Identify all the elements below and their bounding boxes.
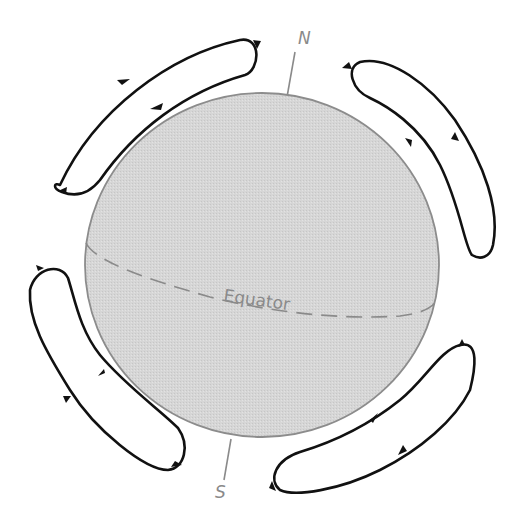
earth-sphere — [85, 93, 439, 437]
arrow-icon — [63, 396, 71, 403]
arrow-icon — [405, 138, 412, 147]
south-axis-line — [224, 439, 231, 480]
arrow-icon — [117, 79, 130, 85]
arrow-icon — [342, 62, 352, 69]
north-pole-label: N — [298, 28, 311, 48]
arrow-icon — [458, 339, 465, 347]
arrow-icon — [150, 103, 163, 110]
earth-circulation-diagram: Equator N S — [0, 0, 515, 522]
arrow-icon — [451, 132, 459, 141]
south-pole-label: S — [215, 482, 226, 502]
north-axis-line — [287, 52, 295, 97]
arrow-icon — [98, 369, 105, 376]
arrow-icon — [36, 265, 44, 271]
arrow-icon — [398, 445, 407, 455]
diagram-canvas: Equator N S — [0, 0, 515, 522]
